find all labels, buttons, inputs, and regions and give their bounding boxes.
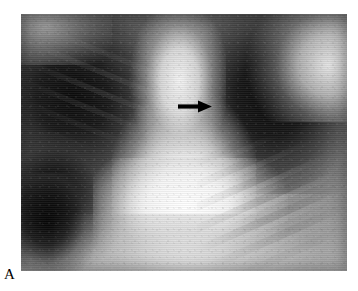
arrow-right-icon [178, 99, 212, 114]
figure-root: A [0, 0, 358, 291]
figure-panel-label: A [4, 266, 15, 282]
chest-radiograph-image [21, 14, 347, 271]
costophrenic-angle-left [21, 173, 106, 271]
rib-shadows-upper-left [28, 29, 165, 147]
rib-shadows-lower-right [197, 137, 347, 271]
apex-right-chest-wall [243, 14, 347, 122]
